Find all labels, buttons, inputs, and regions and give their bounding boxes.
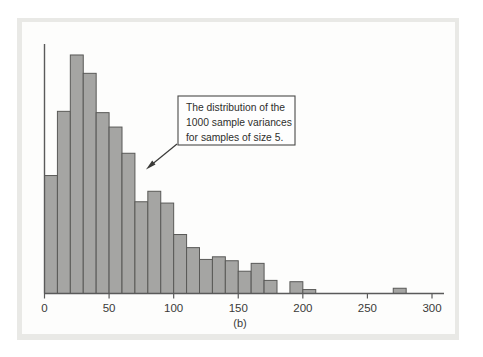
annotation-arrow-line (150, 144, 177, 166)
x-axis-tick-label: 150 (229, 302, 248, 314)
x-axis-ticks (45, 294, 433, 299)
histogram-svg: 050100150200250300 (b) The distribution … (0, 0, 483, 357)
x-axis-tick-label: 300 (422, 302, 441, 314)
x-axis-tick-label: 200 (293, 302, 312, 314)
x-axis-tick-label: 50 (103, 302, 116, 314)
histogram-bar (174, 235, 187, 294)
histogram-bar (393, 288, 406, 293)
histogram-bar (225, 261, 238, 294)
x-axis-tick-labels: 050100150200250300 (41, 302, 441, 314)
histogram-bar (122, 153, 135, 293)
annotation-line-3: for samples of size 5. (186, 132, 283, 143)
histogram-bar (264, 280, 277, 293)
x-axis-tick-label: 250 (358, 302, 377, 314)
histogram-bar (290, 282, 303, 294)
histogram-bar (251, 263, 264, 293)
x-axis-tick-label: 0 (41, 302, 47, 314)
histogram-bar (45, 176, 58, 294)
panel-caption: (b) (233, 317, 246, 329)
histogram-bar (83, 73, 96, 293)
histogram-bars (45, 55, 407, 294)
x-axis-tick-label: 100 (164, 302, 183, 314)
histogram-bar (200, 259, 213, 293)
annotation-line-1: The distribution of the (186, 102, 285, 113)
histogram-bar (57, 111, 70, 293)
histogram-bar (212, 257, 225, 294)
histogram-bar (148, 191, 161, 293)
histogram-bar (135, 202, 148, 294)
histogram-chart: 050100150200250300 (b) The distribution … (0, 0, 483, 357)
histogram-bar (70, 55, 83, 294)
histogram-bar (109, 127, 122, 293)
histogram-bar (161, 203, 174, 293)
histogram-bar (96, 113, 109, 294)
annotation-line-2: 1000 sample variances (186, 117, 292, 128)
figure-page: 050100150200250300 (b) The distribution … (0, 0, 483, 357)
histogram-bar (238, 271, 251, 293)
histogram-bar (187, 248, 200, 294)
